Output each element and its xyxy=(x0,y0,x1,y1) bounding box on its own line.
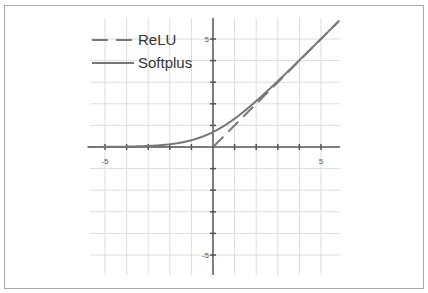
legend-label-relu: ReLU xyxy=(138,30,176,50)
legend-label-softplus: Softplus xyxy=(138,53,192,73)
solid-line-icon xyxy=(92,62,134,64)
svg-text:-5: -5 xyxy=(202,251,210,260)
plot-area: -555-5 xyxy=(0,0,428,293)
svg-text:5: 5 xyxy=(205,35,210,44)
dashed-line-icon xyxy=(92,39,134,41)
svg-text:5: 5 xyxy=(319,157,324,166)
svg-text:-5: -5 xyxy=(101,157,109,166)
